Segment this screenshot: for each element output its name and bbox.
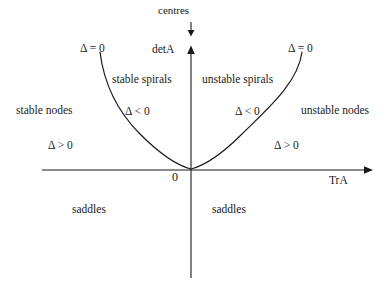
delta-negative-left-label: Δ < 0: [125, 106, 150, 118]
centres-pointer-arrowhead: [188, 30, 195, 37]
delta-negative-right-label: Δ < 0: [235, 106, 260, 118]
horizontal-axis-arrowhead: [364, 166, 373, 174]
origin-label: 0: [172, 171, 178, 183]
unstable-spirals-label: unstable spirals: [202, 74, 273, 86]
saddles-right-label: saddles: [212, 204, 246, 216]
trace-determinant-diagram: centres detA Δ = 0 Δ = 0 stable spirals …: [0, 0, 391, 290]
delta-positive-left-label: Δ > 0: [48, 140, 73, 152]
centres-label: centres: [158, 5, 189, 16]
delta-zero-right-label: Δ = 0: [288, 43, 313, 55]
unstable-nodes-label: unstable nodes: [301, 105, 369, 117]
vertical-axis-label: detA: [152, 44, 174, 56]
vertical-axis-arrowhead: [187, 46, 195, 55]
stable-spirals-label: stable spirals: [112, 74, 172, 86]
saddles-left-label: saddles: [72, 204, 106, 216]
stable-nodes-label: stable nodes: [16, 105, 73, 117]
delta-zero-left-label: Δ = 0: [80, 43, 105, 55]
horizontal-axis-label: TrA: [329, 175, 348, 187]
delta-positive-right-label: Δ > 0: [274, 140, 299, 152]
